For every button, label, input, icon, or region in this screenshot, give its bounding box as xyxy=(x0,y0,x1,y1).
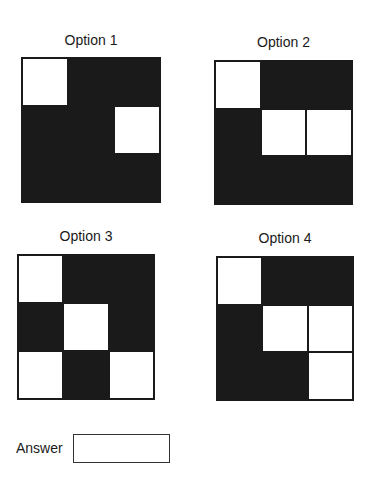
grid-cell-black xyxy=(114,154,160,202)
answer-input-box[interactable] xyxy=(73,434,170,463)
grid-cell-black xyxy=(22,106,68,154)
option-2-label: Option 2 xyxy=(214,34,353,50)
option-1-grid[interactable] xyxy=(21,57,161,203)
answer-label: Answer xyxy=(16,440,63,456)
grid-cell-black xyxy=(306,156,352,204)
grid-cell-black xyxy=(114,58,160,106)
grid-cell-white xyxy=(22,58,68,106)
grid-cell-white xyxy=(262,305,307,353)
grid-cell-black xyxy=(217,352,262,400)
grid-cell-black xyxy=(18,303,63,351)
grid-cell-white xyxy=(308,305,353,353)
grid-cell-black xyxy=(109,303,154,351)
grid-cell-black xyxy=(63,351,108,399)
grid-cell-black xyxy=(261,61,307,109)
grid-cell-white xyxy=(18,255,63,303)
option-3-label: Option 3 xyxy=(17,228,155,244)
grid-cell-black xyxy=(109,255,154,303)
grid-cell-white xyxy=(215,61,261,109)
grid-cell-white xyxy=(114,106,160,154)
grid-cell-black xyxy=(68,58,114,106)
grid-cell-white xyxy=(306,109,352,157)
grid-cell-black xyxy=(261,156,307,204)
option-4-label: Option 4 xyxy=(216,230,354,246)
grid-cell-black xyxy=(217,305,262,353)
option-3-grid[interactable] xyxy=(17,254,155,400)
grid-cell-white xyxy=(261,109,307,157)
grid-cell-black xyxy=(215,109,261,157)
grid-cell-white xyxy=(63,303,108,351)
grid-cell-white xyxy=(217,257,262,305)
grid-cell-black xyxy=(22,154,68,202)
grid-cell-black xyxy=(262,352,307,400)
option-2-grid[interactable] xyxy=(214,60,353,205)
grid-cell-black xyxy=(68,106,114,154)
grid-cell-black xyxy=(68,154,114,202)
grid-cell-black xyxy=(63,255,108,303)
option-4-grid[interactable] xyxy=(216,256,354,401)
grid-cell-black xyxy=(262,257,307,305)
option-1-label: Option 1 xyxy=(21,32,161,48)
grid-cell-black xyxy=(215,156,261,204)
grid-cell-black xyxy=(308,257,353,305)
grid-cell-black xyxy=(306,61,352,109)
grid-cell-white xyxy=(109,351,154,399)
grid-cell-white xyxy=(18,351,63,399)
grid-cell-white xyxy=(308,352,353,400)
